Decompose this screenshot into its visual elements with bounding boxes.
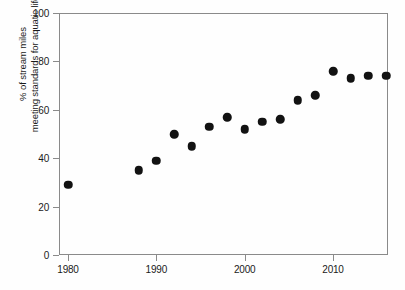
data-point xyxy=(258,118,267,127)
plot-area xyxy=(59,13,388,255)
data-point xyxy=(276,115,285,124)
scatter-chart-figure: 020406080100 1980199020002010 % of strea… xyxy=(0,0,405,290)
data-point xyxy=(223,113,232,122)
x-axis-tick-label: 1980 xyxy=(48,264,88,275)
x-axis-tick xyxy=(68,255,69,261)
data-point xyxy=(240,125,249,134)
y-axis-tick xyxy=(53,255,59,256)
y-axis-tick-label: 20 xyxy=(17,201,49,212)
x-axis-tick xyxy=(245,255,246,261)
y-axis-tick-label: 0 xyxy=(17,250,49,261)
x-axis-tick xyxy=(156,255,157,261)
x-axis-tick-label: 2000 xyxy=(225,264,265,275)
data-point xyxy=(152,156,161,165)
data-point xyxy=(293,96,302,105)
data-point xyxy=(311,91,320,100)
y-axis-title-line-1: % of stream miles xyxy=(17,27,29,101)
data-point xyxy=(170,130,179,139)
data-point xyxy=(187,142,196,151)
data-point xyxy=(346,74,355,83)
data-point xyxy=(382,72,391,81)
data-point xyxy=(205,122,214,131)
y-axis-title-line-2: meeting standards for aquatic life xyxy=(29,0,41,132)
data-point xyxy=(134,166,143,175)
x-axis-tick-label: 1990 xyxy=(136,264,176,275)
data-point xyxy=(329,67,338,76)
data-point xyxy=(364,72,373,81)
x-axis-tick xyxy=(333,255,334,261)
x-axis-tick-label: 2010 xyxy=(313,264,353,275)
data-point xyxy=(64,181,73,190)
y-axis-title: % of stream miles meeting standards for … xyxy=(15,0,43,169)
